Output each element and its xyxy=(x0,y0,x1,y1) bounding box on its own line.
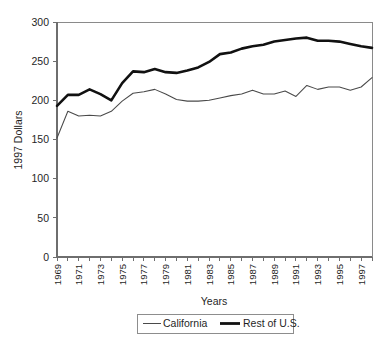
y-tick-label: 250 xyxy=(31,55,49,67)
data-series-group xyxy=(57,38,372,138)
y-tick-label: 300 xyxy=(31,16,49,28)
legend-label-rest-of-us: Rest of U.S. xyxy=(243,317,300,329)
line-chart-svg: 050100150200250300 196919711973197519771… xyxy=(0,0,389,340)
x-tick-label: 1995 xyxy=(334,264,345,285)
x-tick-label: 1975 xyxy=(117,264,128,285)
x-tick-label: 1971 xyxy=(73,264,84,285)
x-tick-label: 1985 xyxy=(225,264,236,285)
x-tick-label: 1993 xyxy=(312,264,323,285)
x-axis-title: Years xyxy=(201,295,227,307)
x-tick-label: 1969 xyxy=(52,264,63,285)
x-tick-label: 1989 xyxy=(269,264,280,285)
x-tick-label: 1977 xyxy=(138,264,149,285)
chart-figure: 050100150200250300 196919711973197519771… xyxy=(0,0,389,340)
x-tick-label: 1987 xyxy=(247,264,258,285)
x-tick-label: 1981 xyxy=(182,264,193,285)
y-axis-tick-labels: 050100150200250300 xyxy=(31,16,49,263)
y-tick-label: 50 xyxy=(37,212,49,224)
x-tick-label: 1997 xyxy=(356,264,367,285)
x-tick-label: 1991 xyxy=(290,264,301,285)
y-axis-title: 1997 Dollars xyxy=(12,111,24,170)
y-tick-label: 0 xyxy=(43,251,49,263)
series-line-rest-of-us xyxy=(57,38,372,106)
y-tick-label: 100 xyxy=(31,172,49,184)
y-tick-label: 200 xyxy=(31,94,49,106)
series-line-california xyxy=(57,78,372,138)
x-tick-label: 1973 xyxy=(95,264,106,285)
chart-legend: California Rest of U.S. xyxy=(137,314,300,333)
y-axis-ticks xyxy=(53,22,57,257)
y-tick-label: 150 xyxy=(31,133,49,145)
x-tick-label: 1983 xyxy=(204,264,215,285)
x-axis-ticks xyxy=(57,257,372,261)
legend-label-california: California xyxy=(163,317,208,329)
x-axis-tick-labels: 1969197119731975197719791981198319851987… xyxy=(52,264,367,285)
x-tick-label: 1979 xyxy=(160,264,171,285)
